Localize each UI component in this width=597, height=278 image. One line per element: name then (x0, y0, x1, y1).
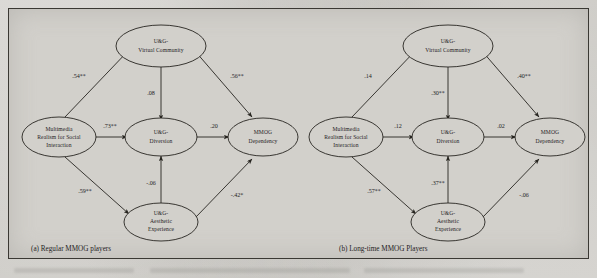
node-virtual-community (403, 25, 493, 67)
svg-text:Multimedia: Multimedia (45, 126, 73, 132)
coef-mrsi-virtual: .14 (364, 73, 372, 79)
path-aesthetic-to-dependency (196, 159, 252, 217)
svg-text:Dependency: Dependency (536, 138, 565, 144)
svg-text:Dependency: Dependency (249, 138, 278, 144)
coef-aesthetic-diversion: -.06 (146, 180, 156, 186)
svg-text:Realism for Social: Realism for Social (37, 134, 81, 140)
coef-virtual-dependency: .40** (517, 73, 531, 79)
svg-text:Diversion: Diversion (437, 138, 460, 144)
coef-mrsi-diversion: .73** (103, 123, 117, 129)
panel-b-caption: (b) Long-time MMOG Players (339, 245, 428, 253)
svg-text:U&G-: U&G- (441, 210, 456, 216)
svg-text:U&G-: U&G- (441, 38, 456, 44)
coef-aesthetic-diversion: .37** (431, 180, 445, 186)
svg-text:U&G-: U&G- (441, 129, 456, 135)
coef-mrsi-diversion: .12 (394, 123, 402, 129)
path-aesthetic-to-dependency (483, 159, 539, 217)
svg-text:U&G-: U&G- (154, 129, 169, 135)
node-diversion (125, 118, 197, 156)
svg-text:MMOG: MMOG (541, 129, 559, 135)
svg-text:Aesthetic: Aesthetic (150, 218, 172, 224)
panel-a-regular-players: Multimedia Realism for Social Interactio… (9, 9, 299, 258)
coef-aesthetic-dependency: -.42* (231, 192, 244, 198)
coef-aesthetic-dependency: -.06 (519, 192, 529, 198)
coef-mrsi-aesthetic: .57** (367, 188, 381, 194)
coef-virtual-diversion: .08 (147, 90, 155, 96)
node-diversion (412, 118, 484, 156)
svg-text:Aesthetic: Aesthetic (437, 218, 459, 224)
coef-mrsi-aesthetic: .59** (78, 188, 92, 194)
node-mmog-dependency (228, 118, 298, 156)
path-virtual-to-dependency (482, 51, 539, 117)
svg-text:Virtual Community: Virtual Community (138, 47, 183, 53)
svg-text:Interaction: Interaction (333, 142, 358, 148)
panel-b-long-time-players: Multimedia Realism for Social Interactio… (299, 9, 590, 258)
svg-text:U&G-: U&G- (154, 38, 169, 44)
coef-mrsi-virtual: .54** (72, 73, 86, 79)
figure-frame: Multimedia Realism for Social Interactio… (8, 8, 589, 259)
svg-text:Experience: Experience (148, 226, 175, 232)
svg-text:Multimedia: Multimedia (332, 126, 360, 132)
coef-diversion-dependency: .02 (497, 123, 505, 129)
svg-text:Diversion: Diversion (150, 138, 173, 144)
path-mrsi-to-virtual (65, 50, 129, 117)
path-mrsi-to-virtual (352, 50, 416, 117)
node-mmog-dependency (515, 118, 585, 156)
path-mrsi-to-aesthetic (352, 157, 416, 214)
panel-b-diagram: Multimedia Realism for Social Interactio… (299, 9, 590, 260)
svg-text:Interaction: Interaction (46, 142, 71, 148)
coef-virtual-dependency: .56** (230, 73, 244, 79)
path-virtual-to-dependency (195, 51, 252, 117)
panel-a-diagram: Multimedia Realism for Social Interactio… (9, 9, 299, 260)
svg-text:Virtual Community: Virtual Community (425, 47, 470, 53)
node-virtual-community (116, 25, 206, 67)
coef-virtual-diversion: .30** (431, 90, 445, 96)
panel-a-caption: (a) Regular MMOG players (31, 245, 111, 253)
svg-text:U&G-: U&G- (154, 210, 169, 216)
coef-diversion-dependency: .20 (210, 123, 218, 129)
svg-text:Realism for Social: Realism for Social (324, 134, 368, 140)
svg-text:Experience: Experience (435, 226, 462, 232)
svg-text:MMOG: MMOG (254, 129, 272, 135)
path-mrsi-to-aesthetic (65, 157, 129, 214)
